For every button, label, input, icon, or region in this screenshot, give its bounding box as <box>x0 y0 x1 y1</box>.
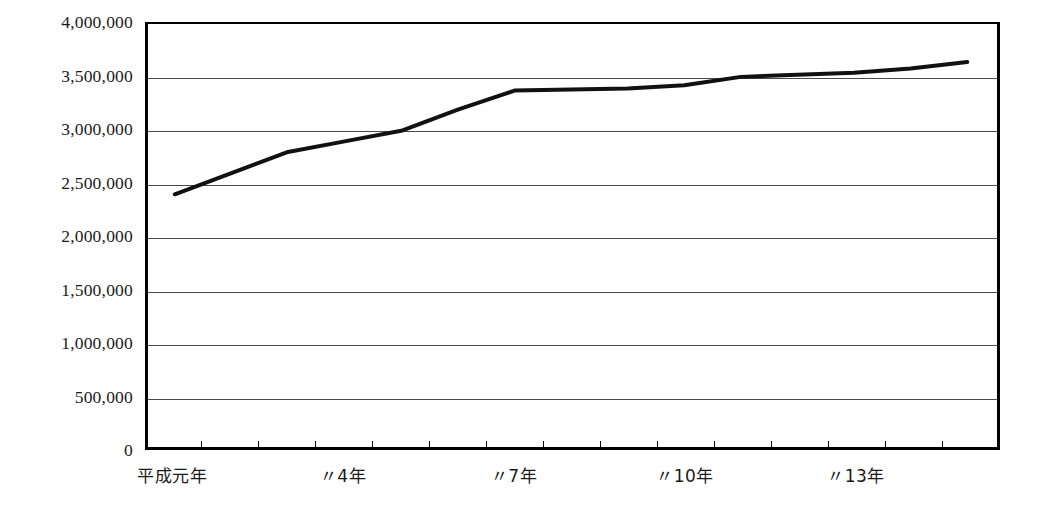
x-axis-labels: 平成元年〃4年〃7年〃10年〃13年 <box>145 462 1000 502</box>
x-axis-tick <box>771 441 772 450</box>
x-axis-tick <box>201 441 202 450</box>
x-axis-tick-label: 〃7年 <box>491 462 537 487</box>
x-axis-tick-label: 〃13年 <box>827 462 885 487</box>
x-axis-tick-label: 〃10年 <box>656 462 714 487</box>
x-axis-tick-label: 〃4年 <box>320 462 366 487</box>
x-axis-tick <box>372 441 373 450</box>
series-layer <box>148 24 997 447</box>
y-axis-tick-label: 500,000 <box>75 386 133 407</box>
x-axis-tick <box>600 441 601 450</box>
line-chart: 4,000,0003,500,0003,000,0002,500,0002,00… <box>0 0 1043 529</box>
y-axis-tick-label: 0 <box>124 440 133 461</box>
plot-area <box>145 22 1000 450</box>
x-axis-tick <box>942 441 943 450</box>
x-axis-tick <box>315 441 316 450</box>
y-axis-tick-label: 3,000,000 <box>61 119 133 140</box>
x-axis-tick <box>486 441 487 450</box>
y-axis-tick-label: 2,000,000 <box>61 226 133 247</box>
y-axis-tick-label: 3,500,000 <box>61 65 133 86</box>
x-axis-tick <box>885 441 886 450</box>
x-axis-tick <box>714 441 715 450</box>
x-axis-tick-label: 平成元年 <box>137 462 207 487</box>
x-axis-tick <box>657 441 658 450</box>
x-axis-tick <box>828 441 829 450</box>
y-axis-tick-label: 1,000,000 <box>61 333 133 354</box>
x-axis-tick <box>543 441 544 450</box>
y-axis-labels: 4,000,0003,500,0003,000,0002,500,0002,00… <box>0 22 133 450</box>
y-axis-tick-label: 2,500,000 <box>61 172 133 193</box>
data-series-line <box>175 62 967 194</box>
y-axis-tick-label: 4,000,000 <box>61 12 133 33</box>
x-axis-ticks <box>145 450 1000 459</box>
y-axis-tick-label: 1,500,000 <box>61 279 133 300</box>
x-axis-tick <box>429 441 430 450</box>
x-axis-tick <box>258 441 259 450</box>
